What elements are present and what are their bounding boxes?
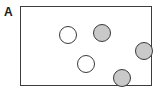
circle-marker-filled-3 <box>113 69 131 87</box>
circle-marker-filled-1 <box>93 24 111 42</box>
circle-marker-open-2 <box>77 55 95 73</box>
figure-panel-a: A <box>0 0 160 92</box>
plot-frame <box>20 6 152 86</box>
circle-marker-filled-2 <box>135 42 153 60</box>
circle-marker-open-1 <box>59 26 77 44</box>
panel-label: A <box>4 6 13 19</box>
